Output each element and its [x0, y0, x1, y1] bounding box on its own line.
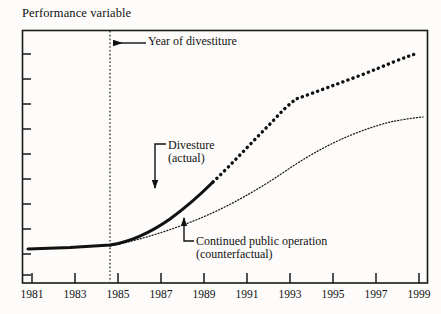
x-tick-label-1987: 1987	[139, 288, 183, 300]
annotation-actual-line1: Divesture	[168, 139, 215, 152]
annotation-year-of-divestiture: Year of divestiture	[148, 35, 237, 48]
annotation-actual: Divesture (actual)	[168, 139, 215, 166]
annotation-counterfactual-line1: Continued public operation	[196, 235, 327, 248]
x-axis-ticks	[32, 273, 419, 283]
x-tick-label-1999: 1999	[397, 288, 441, 300]
x-tick-label-1993: 1993	[268, 288, 312, 300]
x-tick-label-1991: 1991	[225, 288, 269, 300]
annotation-counterfactual-line2: (counterfactual)	[196, 248, 327, 261]
annotation-counterfactual: Continued public operation (counterfactu…	[196, 235, 327, 262]
x-tick-label-1985: 1985	[96, 288, 140, 300]
x-tick-label-1997: 1997	[354, 288, 398, 300]
figure-container: Performance variable	[0, 0, 441, 314]
y-axis-ticks	[23, 54, 32, 275]
x-tick-label-1981: 1981	[10, 288, 54, 300]
series-actual-solid	[28, 182, 213, 249]
x-tick-label-1989: 1989	[182, 288, 226, 300]
x-tick-label-1983: 1983	[53, 288, 97, 300]
series-actual-dotted	[213, 54, 415, 182]
annotation-actual-line2: (actual)	[168, 152, 215, 165]
x-tick-label-1995: 1995	[311, 288, 355, 300]
actual-series-leader	[155, 144, 166, 188]
